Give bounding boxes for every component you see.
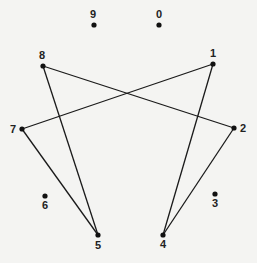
node-label: 8 <box>39 49 45 61</box>
edges-group <box>22 64 234 235</box>
node-2: 2 <box>231 122 246 134</box>
node-dot <box>91 22 96 27</box>
node-dot <box>210 61 215 66</box>
node-dot <box>19 126 24 131</box>
node-6: 6 <box>42 193 48 211</box>
node-label: 3 <box>212 197 218 209</box>
node-dot <box>95 232 100 237</box>
graph-diagram: 0123456789 <box>0 0 257 263</box>
node-7: 7 <box>10 123 25 135</box>
nodes-group: 0123456789 <box>10 8 246 251</box>
edge-8-5 <box>43 66 98 235</box>
edge-1-4 <box>163 64 213 235</box>
node-5: 5 <box>95 232 101 251</box>
node-dot <box>40 63 45 68</box>
node-9: 9 <box>90 8 97 28</box>
edge-2-4 <box>163 128 234 235</box>
node-dot <box>212 191 217 196</box>
node-label: 9 <box>90 8 96 20</box>
node-dot <box>156 22 161 27</box>
node-1: 1 <box>210 47 216 67</box>
node-label: 2 <box>240 122 246 134</box>
node-4: 4 <box>160 232 167 250</box>
node-dot <box>160 232 165 237</box>
edge-8-2 <box>43 66 234 128</box>
edge-1-7 <box>22 64 213 129</box>
node-label: 0 <box>156 8 162 20</box>
node-label: 6 <box>42 199 48 211</box>
node-dot <box>42 193 47 198</box>
node-dot <box>231 125 236 130</box>
node-label: 4 <box>160 238 167 250</box>
node-3: 3 <box>212 191 218 209</box>
edge-7-5 <box>22 129 98 235</box>
node-8: 8 <box>39 49 46 69</box>
node-label: 5 <box>95 239 101 251</box>
node-0: 0 <box>156 8 162 28</box>
node-label: 7 <box>10 123 16 135</box>
node-label: 1 <box>210 47 216 59</box>
